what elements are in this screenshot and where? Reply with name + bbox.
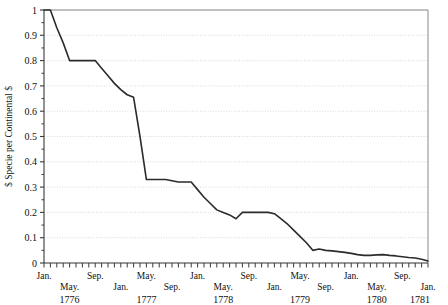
x-axis-tick-label: Jan.	[420, 282, 435, 292]
x-axis-year-label: 1776	[60, 294, 80, 305]
x-axis-tick-label: Sep.	[317, 282, 334, 292]
x-axis-tick-label: Jan.	[113, 282, 128, 292]
x-axis-tick-label: May.	[137, 271, 156, 281]
x-axis-tick-label: May.	[290, 271, 309, 281]
y-axis-tick-label: 0.1	[25, 232, 38, 243]
x-axis-tick-label: Jan.	[267, 282, 282, 292]
x-axis-year-label: 1778	[213, 294, 233, 305]
y-axis-tick-label: 1	[32, 5, 37, 16]
y-axis-tick-label: 0.2	[25, 207, 38, 218]
y-axis-tick-label: 0.7	[25, 81, 38, 92]
x-axis-tick-label: May.	[367, 282, 386, 292]
y-axis-tick-label: 0.3	[25, 182, 38, 193]
line-chart: 00.10.20.30.40.50.60.70.80.91 Jan.May.Se…	[0, 0, 448, 305]
y-axis-tick-label: 0	[32, 258, 37, 269]
y-axis-tick-label: 0.8	[25, 55, 38, 66]
x-axis-tick-label: Sep.	[87, 271, 104, 281]
x-axis-year-label: 1779	[290, 294, 310, 305]
y-axis-tick-label: 0.6	[25, 106, 38, 117]
x-axis-tick-label: Jan.	[36, 271, 51, 281]
y-axis-title: $ Specie per Continental $	[4, 86, 14, 187]
x-axis-ticks	[44, 263, 428, 268]
x-axis-year-label: 1780	[367, 294, 387, 305]
x-axis-tick-label: May.	[60, 282, 79, 292]
x-axis-year-label: 1777	[136, 294, 156, 305]
chart-background	[0, 0, 448, 305]
x-axis-tick-label: Jan.	[190, 271, 205, 281]
x-axis-tick-label: Sep.	[240, 271, 257, 281]
x-axis-tick-label: May.	[214, 282, 233, 292]
y-axis-tick-label: 0.5	[25, 131, 38, 142]
y-axis-title-text: $ Specie per Continental $	[4, 86, 14, 187]
x-axis-tick-label: Sep.	[394, 271, 411, 281]
x-axis-year-label: 1781	[410, 294, 430, 305]
y-axis-tick-label: 0.4	[25, 156, 38, 167]
x-axis-tick-label: Jan.	[344, 271, 359, 281]
x-axis-tick-label: Sep.	[164, 282, 181, 292]
y-axis-tick-label: 0.9	[25, 30, 38, 41]
chart-container: 00.10.20.30.40.50.60.70.80.91 Jan.May.Se…	[0, 0, 448, 305]
